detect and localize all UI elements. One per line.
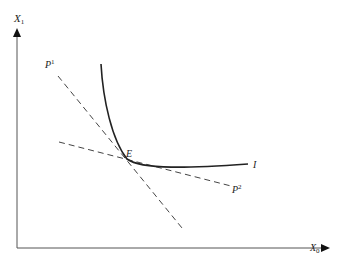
axes (13, 28, 330, 252)
indifference-curve (101, 64, 248, 167)
budget-line-p1-label: P1 (44, 58, 55, 70)
indifference-curve-label: I (252, 159, 257, 170)
diagram: X1 X0 P1 P2 I E (0, 0, 337, 263)
x-axis-label: X0 (309, 242, 320, 255)
budget-line-p1 (58, 76, 182, 228)
budget-line-p2-label: P2 (231, 183, 242, 195)
y-axis-arrow-icon (13, 28, 21, 37)
budget-line-p2 (59, 142, 231, 186)
equilibrium-point-label: E (125, 148, 132, 159)
x-axis-arrow-icon (321, 244, 330, 252)
y-axis-label: X1 (13, 12, 25, 26)
